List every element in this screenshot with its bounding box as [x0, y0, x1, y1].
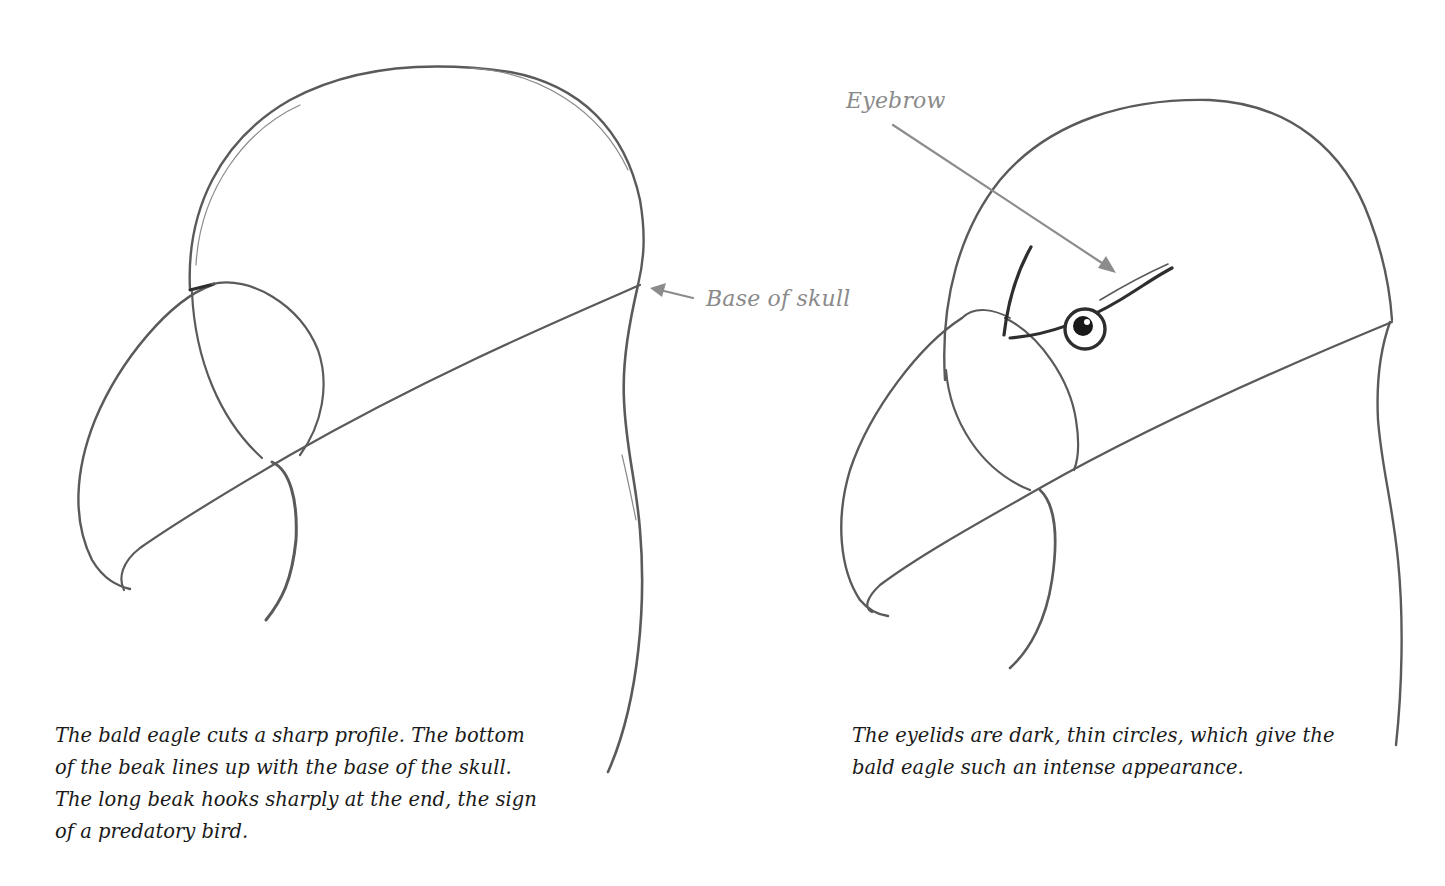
right-beak-skull-axis: [867, 322, 1392, 612]
right-cere-ellipse: [946, 318, 1078, 490]
left-beak-skull-axis: [121, 285, 640, 590]
left-skull-outline: [190, 66, 644, 290]
right-eagle-sketch: [841, 100, 1401, 745]
left-lower-jaw: [266, 462, 296, 620]
right-eye: [1065, 309, 1105, 349]
eyebrow-pointer: [893, 125, 1116, 273]
left-caption: The bald eagle cuts a sharp profile. The…: [55, 720, 537, 848]
left-eagle-sketch: [78, 66, 643, 772]
base-of-skull-label: Base of skull: [706, 286, 850, 311]
left-cere-ellipse: [192, 282, 324, 458]
left-caption-line: The bald eagle cuts a sharp profile. The…: [55, 720, 537, 752]
right-caption-line: bald eagle such an intense appearance.: [852, 752, 1334, 784]
base-of-skull-pointer: [650, 283, 693, 298]
left-caption-line: The long beak hooks sharply at the end, …: [55, 784, 537, 816]
left-neck-line: [608, 285, 642, 772]
right-brow-ridge: [1004, 247, 1031, 335]
left-caption-line: of the beak lines up with the base of th…: [55, 752, 537, 784]
left-caption-line: of a predatory bird.: [55, 816, 537, 848]
right-caption: The eyelids are dark, thin circles, whic…: [852, 720, 1334, 784]
right-lower-jaw: [1010, 490, 1055, 668]
right-neck-line: [1378, 322, 1402, 745]
right-caption-line: The eyelids are dark, thin circles, whic…: [852, 720, 1334, 752]
eyebrow-label: Eyebrow: [846, 88, 946, 113]
